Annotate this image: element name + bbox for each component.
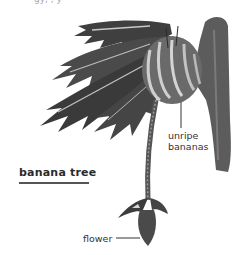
banana-tree-diagram: gy, , y [0,0,240,255]
banana-tree-illustration [0,0,240,255]
diagram-title: banana tree [19,166,96,179]
label-flower: flower [83,233,112,244]
label-unripe-line1: unripe [168,130,198,141]
banana-flower [118,198,168,246]
label-unripe-line2: bananas [168,141,209,152]
title-underline [19,182,89,184]
flower-stem [147,100,156,200]
